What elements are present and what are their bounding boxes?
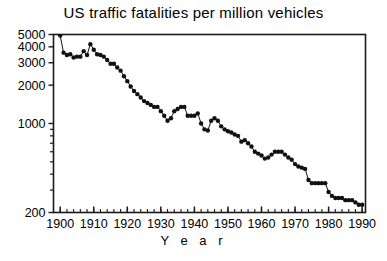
data-point (105, 58, 109, 62)
x-axis-tick-label: 1970 (281, 217, 309, 231)
data-point (249, 144, 253, 148)
data-point (159, 109, 163, 113)
data-point (115, 65, 119, 69)
data-point (132, 89, 136, 93)
x-axis-tick-label: 1910 (80, 217, 108, 231)
x-axis-tick-label: 1960 (248, 217, 276, 231)
y-axis-tick-label: 200 (25, 206, 46, 220)
data-point (139, 95, 143, 99)
data-point (162, 114, 166, 118)
data-point (81, 49, 85, 53)
data-point (289, 157, 293, 161)
data-point (169, 116, 173, 120)
x-axis-tick-label: 1900 (46, 217, 74, 231)
data-point (259, 153, 263, 157)
data-point (88, 42, 92, 46)
plot-frame (54, 35, 366, 213)
x-axis-tick-label: 1950 (214, 217, 242, 231)
data-point (236, 134, 240, 138)
data-point (128, 84, 132, 88)
data-point (196, 111, 200, 115)
data-point (246, 141, 250, 145)
data-point (155, 105, 159, 109)
data-point (360, 203, 364, 207)
x-axis-tick-label: 1990 (348, 217, 376, 231)
chart-root: US traffic fatalities per million vehicl… (0, 0, 387, 261)
data-point (78, 54, 82, 58)
data-point (92, 47, 96, 51)
data-series (58, 33, 364, 207)
x-axis-tick-label: 1980 (315, 217, 343, 231)
data-point (125, 79, 129, 83)
x-axis-title: Y e a r (0, 233, 387, 248)
data-point (102, 54, 106, 58)
chart-plot-area: 5000400030002000100020019001910192019301… (0, 0, 387, 261)
data-point (206, 128, 210, 132)
data-point (283, 152, 287, 156)
data-point (323, 181, 327, 185)
y-axis-tick-label: 1000 (18, 117, 46, 131)
data-point (135, 92, 139, 96)
data-point (306, 178, 310, 182)
data-point (219, 124, 223, 128)
data-point (182, 105, 186, 109)
data-point (118, 68, 122, 72)
data-point (326, 190, 330, 194)
data-point (279, 150, 283, 154)
data-point (216, 119, 220, 123)
x-axis-tick-label: 1940 (180, 217, 208, 231)
data-point (199, 121, 203, 125)
data-point (85, 53, 89, 57)
data-point (266, 155, 270, 159)
data-point (303, 167, 307, 171)
y-axis-tick-label: 4000 (18, 40, 46, 54)
data-point (243, 138, 247, 142)
y-axis-tick-label: 3000 (18, 56, 46, 70)
data-point (68, 52, 72, 56)
data-point (122, 74, 126, 78)
x-axis-tick-label: 1930 (147, 217, 175, 231)
data-point (112, 61, 116, 65)
y-axis-tick-label: 2000 (18, 79, 46, 93)
x-axis-tick-label: 1920 (113, 217, 141, 231)
data-point (269, 152, 273, 156)
